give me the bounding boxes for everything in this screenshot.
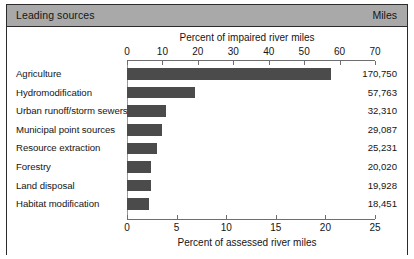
category-label: Hydromodification — [16, 87, 92, 98]
bottom-tick-label-20: 20 — [320, 222, 331, 233]
top-tick-label-10: 10 — [157, 46, 168, 57]
table-row: Municipal point sources29,087 — [7, 121, 407, 140]
category-label: Agriculture — [16, 68, 61, 79]
chart-card: Leading sources Miles Percent of impaire… — [6, 4, 408, 255]
bottom-tick-label-25: 25 — [369, 222, 380, 233]
bar — [127, 105, 166, 117]
table-row: Agriculture170,750 — [7, 65, 407, 84]
bottom-axis-line — [127, 219, 375, 220]
bar — [127, 68, 331, 80]
top-axis-title: Percent of impaired river miles — [122, 32, 372, 43]
category-label: Land disposal — [16, 180, 75, 191]
top-tick-label-50: 50 — [299, 46, 310, 57]
top-tick-label-40: 40 — [263, 46, 274, 57]
miles-value: 20,020 — [368, 161, 397, 172]
category-label: Forestry — [16, 161, 51, 172]
top-axis-tick-labels: 010203040506070 — [7, 46, 407, 58]
top-tick-label-30: 30 — [228, 46, 239, 57]
bar — [127, 198, 149, 210]
bar — [127, 124, 162, 136]
bottom-tick-label-10: 10 — [221, 222, 232, 233]
miles-value: 32,310 — [368, 105, 397, 116]
bar — [127, 143, 157, 155]
top-tick-label-20: 20 — [192, 46, 203, 57]
miles-value: 18,451 — [368, 198, 397, 209]
category-label: Resource extraction — [16, 142, 100, 153]
bar — [127, 87, 195, 99]
category-label: Urban runoff/storm sewers — [16, 105, 128, 116]
top-tick-label-70: 70 — [369, 46, 380, 57]
table-row: Resource extraction25,231 — [7, 139, 407, 158]
bar-rows: Agriculture170,750Hydromodification57,76… — [7, 65, 407, 215]
header-miles-label: Miles — [372, 9, 397, 21]
bottom-tick-mark-25 — [375, 215, 376, 219]
category-label: Municipal point sources — [16, 124, 115, 135]
bottom-tick-label-0: 0 — [124, 222, 130, 233]
top-axis-line — [127, 60, 375, 61]
bar — [127, 161, 151, 173]
top-tick-label-60: 60 — [334, 46, 345, 57]
table-row: Land disposal19,928 — [7, 177, 407, 196]
table-row: Hydromodification57,763 — [7, 84, 407, 103]
miles-value: 25,231 — [368, 142, 397, 153]
bottom-tick-label-15: 15 — [270, 222, 281, 233]
chart-screenshot: Leading sources Miles Percent of impaire… — [0, 0, 414, 259]
table-row: Forestry20,020 — [7, 158, 407, 177]
miles-value: 170,750 — [362, 68, 397, 79]
table-row: Urban runoff/storm sewers32,310 — [7, 102, 407, 121]
top-tick-label-0: 0 — [124, 46, 130, 57]
bottom-axis-tick-labels: 0510152025 — [7, 222, 407, 234]
miles-value: 29,087 — [368, 124, 397, 135]
miles-value: 57,763 — [368, 87, 397, 98]
chart-plot-area: Percent of impaired river miles 01020304… — [7, 27, 407, 255]
header-leading-sources-label: Leading sources — [16, 9, 95, 21]
bar — [127, 180, 151, 192]
category-label: Habitat modification — [16, 198, 99, 209]
miles-value: 19,928 — [368, 180, 397, 191]
bottom-axis-title: Percent of assessed river miles — [122, 237, 372, 248]
table-row: Habitat modification18,451 — [7, 195, 407, 214]
table-header-bar: Leading sources Miles — [7, 5, 407, 27]
bottom-tick-label-5: 5 — [174, 222, 180, 233]
